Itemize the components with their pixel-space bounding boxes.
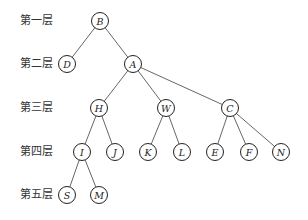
tree-diagram: 第一层 第二层 第三层 第四层 第五层 B D A H W C I J K L …	[0, 0, 308, 220]
tree-node-m: M	[90, 186, 108, 204]
level-label-2: 第二层	[20, 58, 53, 70]
tree-node-b: B	[91, 12, 109, 30]
tree-node-h: H	[90, 99, 108, 117]
tree-node-w: W	[157, 99, 175, 117]
level-label-1: 第一层	[20, 15, 53, 27]
tree-node-j: J	[106, 143, 124, 161]
tree-node-d: D	[58, 55, 76, 73]
tree-node-a: A	[124, 55, 142, 73]
tree-node-c: C	[221, 99, 239, 117]
tree-node-f: F	[240, 143, 258, 161]
tree-node-n: N	[272, 143, 290, 161]
level-label-3: 第三层	[20, 102, 53, 114]
tree-node-e: E	[206, 143, 224, 161]
level-label-4: 第四层	[20, 146, 53, 158]
tree-node-i: I	[73, 143, 91, 161]
tree-edge-a-c	[133, 64, 230, 108]
tree-node-k: K	[139, 143, 157, 161]
level-label-5: 第五层	[20, 189, 53, 201]
tree-node-s: S	[58, 186, 76, 204]
tree-node-l: L	[173, 143, 191, 161]
